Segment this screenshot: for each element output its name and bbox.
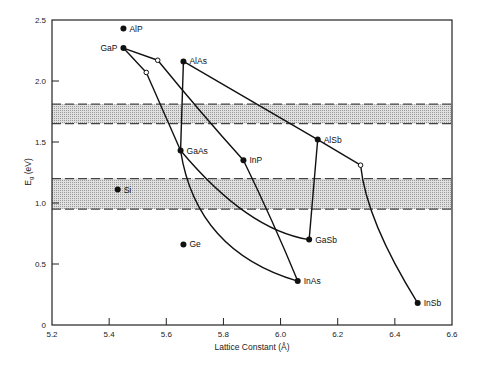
point-gasb-icon <box>306 237 312 243</box>
x-axis-ticks: 5.25.45.65.86.06.26.46.6 <box>46 318 458 339</box>
point-si-icon <box>115 187 121 193</box>
y-axis-ticks: 00.51.01.52.02.5 <box>35 16 59 330</box>
point-label-inp: InP <box>249 155 262 165</box>
point-label-ge: Ge <box>189 239 201 249</box>
bandgap-vs-lattice-chart: 5.25.45.65.86.06.26.46.6 00.51.01.52.02.… <box>0 0 481 368</box>
point-ge-icon <box>180 241 186 247</box>
y-tick-label: 1.5 <box>35 138 47 147</box>
point-label-gaas: GaAs <box>187 146 208 156</box>
x-tick-label: 6.6 <box>446 330 458 339</box>
point-label-alsb: AlSb <box>324 135 342 145</box>
y-axis-label: Eg (eV) <box>23 158 34 186</box>
x-tick-label: 6.0 <box>275 330 287 339</box>
y-tick-label: 0.5 <box>35 260 47 269</box>
point-inas-icon <box>295 278 301 284</box>
point-label-gap: GaP <box>100 43 117 53</box>
point-alas-icon <box>180 58 186 64</box>
point-label-alas: AlAs <box>189 56 206 66</box>
point-label-gasb: GaSb <box>315 235 337 245</box>
x-tick-label: 5.6 <box>161 330 173 339</box>
x-tick-label: 5.2 <box>46 330 58 339</box>
x-axis-label: Lattice Constant (Å) <box>214 342 289 352</box>
lower-band <box>52 179 452 210</box>
upper-band <box>52 104 452 124</box>
y-tick-label: 2.5 <box>35 16 47 25</box>
point-label-inas: InAs <box>304 276 321 286</box>
point-label-insb: InSb <box>424 298 442 308</box>
material-points: AlPGaPAlAsGaAsInPAlSbGaSbInAsInSbSiGe <box>100 24 441 309</box>
x-tick-label: 6.2 <box>332 330 344 339</box>
point-insb-icon <box>415 300 421 306</box>
y-axis-label-unit: (eV) <box>23 158 33 177</box>
x-tick-label: 5.4 <box>104 330 116 339</box>
x-tick-label: 6.4 <box>389 330 401 339</box>
point-inp-icon <box>240 157 246 163</box>
y-tick-label: 0 <box>42 321 47 330</box>
open-point-icon <box>155 58 160 63</box>
point-label-si: Si <box>124 185 132 195</box>
point-label-alp: AlP <box>129 24 143 34</box>
open-point-icon <box>144 70 149 75</box>
y-tick-label: 2.0 <box>35 77 47 86</box>
curve-AlAs-AlSb <box>183 61 317 139</box>
plot-frame <box>52 20 452 325</box>
y-tick-label: 1.0 <box>35 199 47 208</box>
point-gap-icon <box>120 45 126 51</box>
point-gaas-icon <box>178 148 184 154</box>
open-point-icon <box>358 163 363 168</box>
point-alsb-icon <box>315 137 321 143</box>
point-alp-icon <box>120 26 126 32</box>
alloy-curves <box>123 48 417 303</box>
x-tick-label: 5.8 <box>218 330 230 339</box>
